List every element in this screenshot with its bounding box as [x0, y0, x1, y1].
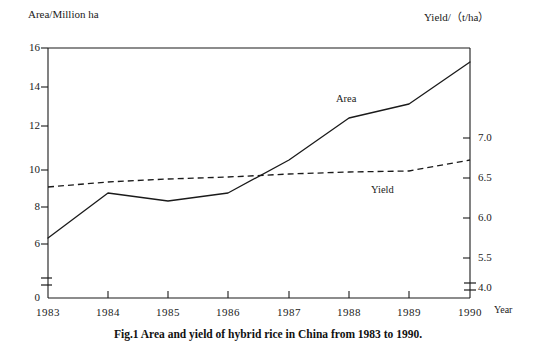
yield-series-label: Yield [371, 184, 394, 195]
x-tick-label-1989: 1989 [387, 306, 431, 318]
x-tick-label-1987: 1987 [267, 306, 311, 318]
figure-container: Area/Million ha Yield/（t/ha） [0, 0, 536, 352]
x-axis-title: Year [494, 304, 512, 315]
right-tick-label-5-5: 5.5 [478, 251, 504, 263]
plot-frame [48, 48, 470, 298]
x-tick-label-1985: 1985 [146, 306, 190, 318]
x-tick-label-1983: 1983 [26, 306, 70, 318]
left-tick-label-0: 0 [18, 291, 40, 303]
figure-caption: Fig.1 Area and yield of hybrid rice in C… [0, 328, 536, 340]
left-tick-label-10: 10 [18, 163, 40, 175]
x-axis-ticks [108, 291, 409, 298]
x-tick-label-1990: 1990 [448, 306, 492, 318]
left-axis-break-symbol [41, 278, 52, 285]
left-axis-ticks [41, 48, 48, 244]
left-tick-label-14: 14 [18, 80, 40, 92]
right-axis-ticks [463, 138, 470, 258]
x-tick-label-1986: 1986 [206, 306, 250, 318]
x-tick-label-1988: 1988 [327, 306, 371, 318]
left-tick-label-16: 16 [18, 41, 40, 53]
left-tick-label-6: 6 [18, 237, 40, 249]
chart-canvas [0, 0, 536, 352]
right-tick-label-4-0: 4.0 [478, 281, 504, 293]
right-tick-label-6-5: 6.5 [478, 171, 504, 183]
left-tick-label-8: 8 [18, 200, 40, 212]
left-tick-label-12: 12 [18, 119, 40, 131]
x-tick-label-1984: 1984 [86, 306, 130, 318]
right-tick-label-7-0: 7.0 [478, 131, 504, 143]
right-tick-label-6-0: 6.0 [478, 211, 504, 223]
yield-series-line [48, 160, 470, 187]
area-series-label: Area [336, 93, 356, 104]
area-series-line [48, 62, 470, 238]
